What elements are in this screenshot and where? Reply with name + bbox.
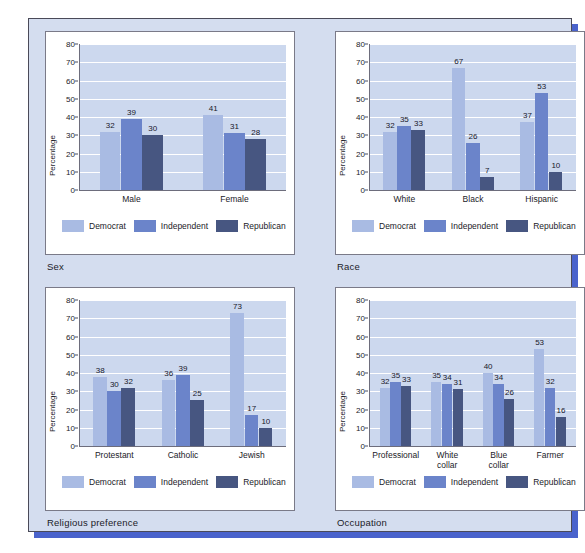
bar-value-label: 34 — [494, 373, 503, 382]
bar-d — [452, 68, 466, 190]
y-tick-label: 20 — [356, 149, 365, 158]
bar-value-label: 40 — [484, 362, 493, 371]
legend-item-r[interactable]: Republican — [506, 476, 584, 488]
chart-card-religion: Percentage807060504030201003830323639257… — [45, 287, 295, 511]
legend-swatch-i-icon — [134, 220, 156, 232]
y-tick-label: 20 — [66, 149, 75, 158]
y-tick-mark — [75, 318, 78, 319]
bar-r — [401, 386, 411, 446]
y-tick-label: 10 — [356, 167, 365, 176]
bar-value-label: 32 — [386, 121, 395, 130]
plot-area — [370, 300, 576, 446]
y-axis-label: Percentage — [338, 72, 347, 84]
y-tick-mark — [365, 391, 368, 392]
y-tick-mark — [75, 300, 78, 301]
y-tick-mark — [365, 409, 368, 410]
legend-swatch-r-icon — [506, 220, 528, 232]
bar-i — [545, 388, 555, 446]
bar-value-label: 35 — [400, 115, 409, 124]
y-tick-label: 30 — [66, 387, 75, 396]
bar-d — [230, 313, 244, 446]
chart-sex: Percentage80706050403020100323930413128M… — [46, 32, 294, 254]
bar-value-label: 35 — [432, 371, 441, 380]
bar-value-label: 32 — [381, 377, 390, 386]
bar-value-label: 31 — [453, 378, 462, 387]
y-tick-label: 10 — [356, 423, 365, 432]
chart-legend: DemocratIndependentRepublican — [62, 220, 294, 232]
bar-i — [535, 93, 549, 190]
y-tick-label: 30 — [66, 131, 75, 140]
y-tick-mark — [365, 318, 368, 319]
y-tick-mark — [75, 373, 78, 374]
legend-item-d[interactable]: Democrat — [352, 220, 424, 232]
bar-r — [259, 428, 273, 446]
y-tick-mark — [365, 62, 368, 63]
y-tick-mark — [75, 446, 78, 447]
y-tick-mark — [365, 446, 368, 447]
gridline — [80, 355, 286, 356]
bar-r — [480, 177, 494, 190]
y-tick-label: 40 — [66, 369, 75, 378]
chart-card-occupation: Percentage807060504030201003235333534314… — [335, 287, 585, 511]
legend-item-r[interactable]: Republican — [216, 220, 294, 232]
y-tick-label: 10 — [66, 167, 75, 176]
y-tick-label: 50 — [356, 94, 365, 103]
bar-d — [100, 132, 121, 190]
y-tick-mark — [75, 80, 78, 81]
bar-value-label: 33 — [414, 119, 423, 128]
legend-label: Democrat — [89, 477, 126, 487]
legend-item-i[interactable]: Independent — [424, 476, 506, 488]
slide-container: Percentage80706050403020100323930413128M… — [28, 18, 572, 532]
legend-item-d[interactable]: Democrat — [62, 220, 134, 232]
legend-item-i[interactable]: Independent — [134, 476, 216, 488]
y-tick-label: 30 — [356, 131, 365, 140]
y-tick-mark — [75, 409, 78, 410]
legend-label: Democrat — [379, 477, 416, 487]
y-tick-mark — [365, 300, 368, 301]
legend-item-i[interactable]: Independent — [134, 220, 216, 232]
y-tick-label: 40 — [356, 113, 365, 122]
bar-value-label: 17 — [247, 404, 256, 413]
bar-i — [466, 143, 480, 190]
x-category-label: Black — [463, 194, 484, 204]
bar-value-label: 32 — [546, 377, 555, 386]
plot-area — [80, 44, 286, 190]
bar-value-label: 39 — [179, 364, 188, 373]
gridline — [80, 117, 286, 118]
x-axis-line — [369, 190, 576, 191]
y-tick-label: 80 — [66, 40, 75, 49]
bar-r — [504, 399, 514, 446]
x-category-label: Catholic — [168, 450, 199, 460]
legend-item-i[interactable]: Independent — [424, 220, 506, 232]
y-tick-mark — [365, 373, 368, 374]
legend-swatch-d-icon — [352, 476, 374, 488]
legend-item-r[interactable]: Republican — [216, 476, 294, 488]
chart-card-race: Percentage807060504030201003235336726737… — [335, 31, 585, 255]
plot-area — [80, 300, 286, 446]
y-tick-label: 60 — [66, 76, 75, 85]
legend-item-d[interactable]: Democrat — [62, 476, 134, 488]
chart-card-sex: Percentage80706050403020100323930413128M… — [45, 31, 295, 255]
y-tick-label: 40 — [356, 369, 365, 378]
x-category-label: Jewish — [239, 450, 265, 460]
legend-item-d[interactable]: Democrat — [352, 476, 424, 488]
panel-caption-occupation: Occupation — [337, 517, 387, 528]
gridline — [370, 337, 576, 338]
bar-value-label: 37 — [523, 111, 532, 120]
y-axis-line — [79, 300, 80, 446]
y-axis-line — [369, 44, 370, 190]
y-tick-mark — [365, 135, 368, 136]
bar-value-label: 30 — [110, 380, 119, 389]
bar-value-label: 33 — [402, 375, 411, 384]
y-tick-label: 60 — [66, 332, 75, 341]
bar-value-label: 30 — [148, 124, 157, 133]
bar-value-label: 39 — [127, 108, 136, 117]
bar-i — [390, 382, 400, 446]
legend-swatch-r-icon — [216, 476, 238, 488]
bar-value-label: 53 — [535, 338, 544, 347]
y-tick-mark — [75, 98, 78, 99]
y-tick-label: 10 — [66, 423, 75, 432]
y-tick-label: 20 — [356, 405, 365, 414]
y-tick-mark — [75, 153, 78, 154]
legend-item-r[interactable]: Republican — [506, 220, 584, 232]
